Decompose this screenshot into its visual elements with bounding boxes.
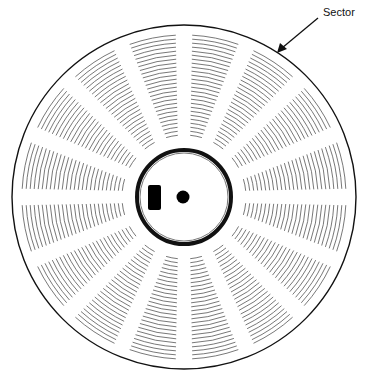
annotation-arrow [282, 18, 318, 48]
spindle-hole [177, 191, 190, 204]
disk-diagram [0, 0, 368, 389]
sector-label: Sector [323, 6, 355, 18]
index-hole [148, 185, 161, 210]
